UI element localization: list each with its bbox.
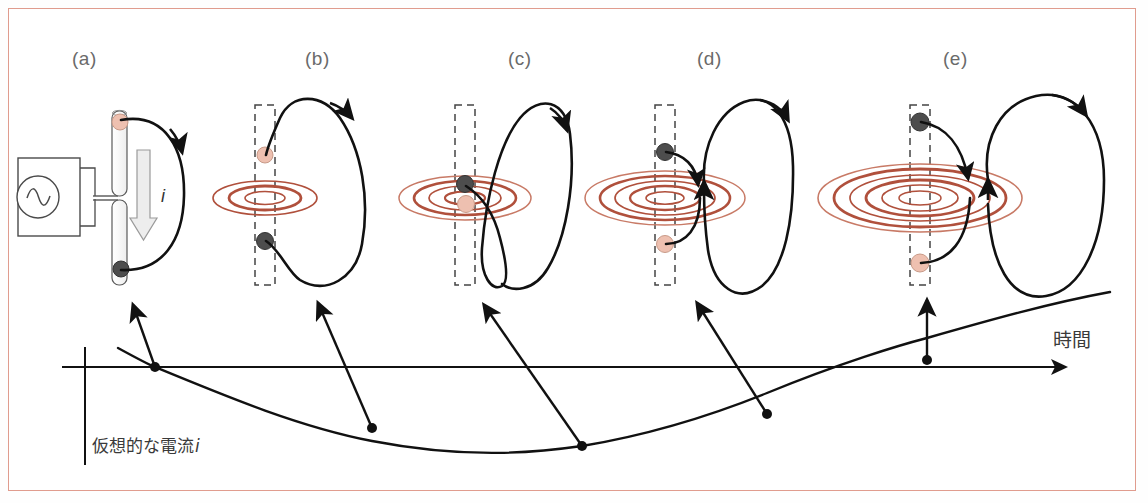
graph-x-axis-label: 時間 xyxy=(1053,329,1091,351)
field-loop-c-arrowhead xyxy=(550,108,567,130)
current-direction-arrow xyxy=(130,150,157,240)
panel-e-group xyxy=(818,95,1104,297)
connector-arrow-c xyxy=(318,303,372,428)
field-loop-c xyxy=(466,103,572,288)
field-loop-e-outer-arrow-top xyxy=(1052,95,1086,115)
connector-arrow-e xyxy=(697,303,767,414)
current-label-i: i xyxy=(161,186,166,206)
antenna-outline-b xyxy=(255,105,275,285)
antenna-outline-c xyxy=(455,105,475,285)
panel-b-group xyxy=(213,99,365,286)
current-waveform xyxy=(118,292,1110,453)
graph-y-axis-label: 仮想的な電流i xyxy=(92,436,200,456)
panel-d-group xyxy=(585,100,793,294)
feed-lead-bottom xyxy=(80,199,95,226)
diagram-canvas: i xyxy=(0,0,1148,503)
field-rings-d xyxy=(585,171,745,225)
field-line-a xyxy=(121,119,184,270)
field-rings-b xyxy=(213,181,317,215)
figure-root: (a) (b) (c) (d) (e) xyxy=(0,0,1148,503)
field-loop-d-outer-arrow-top xyxy=(760,100,788,120)
charge-positive-c xyxy=(458,196,475,213)
panel-a-group: i xyxy=(17,110,184,285)
current-graph: 時間 仮想的な電流i xyxy=(62,292,1110,465)
connector-arrow-d xyxy=(484,305,582,446)
charge-positive-a xyxy=(112,114,128,130)
panel-c-group xyxy=(399,103,572,288)
antenna-outline-d xyxy=(655,105,675,285)
field-loop-d-outer xyxy=(704,100,793,294)
field-rings-e xyxy=(818,164,1022,232)
feed-lead-top xyxy=(80,168,95,196)
field-loop-b xyxy=(266,99,365,286)
